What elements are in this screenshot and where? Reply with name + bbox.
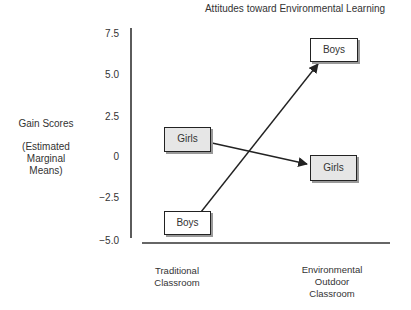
girls-traditional-label: Girls	[164, 127, 211, 152]
x-category-environmental-line2: Outdoor	[282, 276, 382, 288]
boys-traditional-label: Boys	[164, 211, 211, 235]
boys-environmental-label: Boys	[310, 38, 358, 62]
girls-environmental-label: Girls	[310, 155, 357, 181]
x-category-environmental-line3: Classroom	[282, 288, 382, 300]
x-category-traditional-line1: Traditional	[127, 265, 227, 277]
x-category-environmental-line1: Environmental	[282, 264, 382, 276]
x-category-environmental: Environmental Outdoor Classroom	[282, 264, 382, 300]
girls-arrow	[212, 143, 307, 164]
boys-arrow	[201, 64, 318, 212]
x-category-traditional-line2: Classroom	[127, 277, 227, 289]
x-category-traditional: Traditional Classroom	[127, 265, 227, 289]
